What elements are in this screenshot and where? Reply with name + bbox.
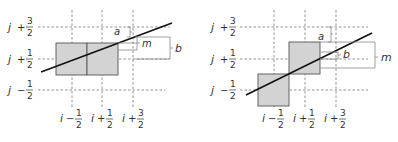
svg-text:+: + bbox=[17, 22, 25, 33]
svg-text:2: 2 bbox=[230, 60, 236, 70]
svg-text:j: j bbox=[6, 53, 12, 66]
left-panel: a m b j + 3 2 j + 1 2 j − 1 2 i − 1 2 bbox=[6, 10, 182, 130]
svg-text:1: 1 bbox=[278, 108, 284, 118]
svg-text:i: i bbox=[324, 112, 327, 125]
svg-text:2: 2 bbox=[27, 28, 33, 38]
svg-text:j: j bbox=[209, 21, 215, 34]
svg-text:+: + bbox=[299, 113, 307, 124]
svg-text:+: + bbox=[17, 54, 25, 65]
pixel-2 bbox=[87, 43, 118, 75]
svg-text:−: − bbox=[66, 113, 74, 124]
svg-text:j: j bbox=[209, 84, 215, 97]
label-m: m bbox=[142, 38, 152, 49]
svg-text:+: + bbox=[330, 113, 338, 124]
svg-text:2: 2 bbox=[138, 120, 144, 130]
svg-text:3: 3 bbox=[230, 16, 236, 26]
svg-text:i: i bbox=[293, 112, 296, 125]
right-panel: a b m j + 3 2 j + 1 2 j − 1 2 i − 1 2 i bbox=[209, 10, 392, 130]
svg-text:2: 2 bbox=[76, 120, 82, 130]
svg-text:1: 1 bbox=[230, 79, 236, 89]
svg-text:i: i bbox=[91, 112, 94, 125]
svg-text:3: 3 bbox=[27, 16, 33, 26]
pixel-1 bbox=[56, 43, 87, 75]
right-row-labels: j + 3 2 j + 1 2 j − 1 2 bbox=[209, 16, 236, 101]
svg-text:1: 1 bbox=[309, 108, 315, 118]
right-col-labels: i − 1 2 i + 1 2 i + 3 2 bbox=[262, 108, 346, 130]
pixel-2 bbox=[289, 42, 320, 74]
svg-text:2: 2 bbox=[340, 120, 346, 130]
pixel-line-diagram: a m b j + 3 2 j + 1 2 j − 1 2 i − 1 2 bbox=[0, 0, 398, 142]
pixel-1 bbox=[258, 74, 289, 106]
svg-text:j: j bbox=[209, 53, 215, 66]
svg-text:j: j bbox=[6, 21, 12, 34]
svg-text:1: 1 bbox=[27, 79, 33, 89]
left-col-labels: i − 1 2 i + 1 2 i + 3 2 bbox=[60, 108, 144, 130]
label-m: m bbox=[381, 51, 392, 64]
svg-text:3: 3 bbox=[138, 108, 144, 118]
label-a: a bbox=[318, 31, 324, 42]
svg-text:2: 2 bbox=[107, 120, 113, 130]
svg-text:2: 2 bbox=[278, 120, 284, 130]
left-row-labels: j + 3 2 j + 1 2 j − 1 2 bbox=[6, 16, 33, 101]
label-a: a bbox=[114, 26, 120, 37]
svg-text:1: 1 bbox=[27, 48, 33, 58]
svg-text:i: i bbox=[60, 112, 63, 125]
svg-text:2: 2 bbox=[309, 120, 315, 130]
svg-text:i: i bbox=[262, 112, 265, 125]
svg-text:−: − bbox=[17, 85, 25, 96]
svg-text:1: 1 bbox=[76, 108, 82, 118]
svg-text:+: + bbox=[220, 54, 228, 65]
svg-text:−: − bbox=[268, 113, 276, 124]
svg-text:2: 2 bbox=[27, 60, 33, 70]
label-b: b bbox=[343, 48, 350, 61]
svg-text:3: 3 bbox=[340, 108, 346, 118]
svg-text:2: 2 bbox=[230, 91, 236, 101]
svg-text:1: 1 bbox=[230, 48, 236, 58]
svg-text:−: − bbox=[220, 85, 228, 96]
svg-text:2: 2 bbox=[230, 28, 236, 38]
svg-text:+: + bbox=[97, 113, 105, 124]
label-b: b bbox=[175, 42, 182, 55]
svg-text:i: i bbox=[122, 112, 125, 125]
svg-text:+: + bbox=[128, 113, 136, 124]
svg-text:1: 1 bbox=[107, 108, 113, 118]
svg-text:2: 2 bbox=[27, 91, 33, 101]
svg-text:j: j bbox=[6, 84, 12, 97]
svg-text:+: + bbox=[220, 22, 228, 33]
